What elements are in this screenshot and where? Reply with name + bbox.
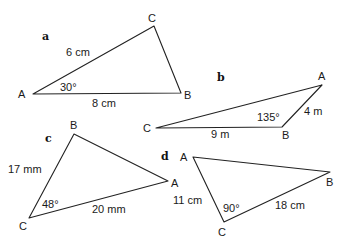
triangle-c-vertex-C: C xyxy=(19,220,27,232)
triangle-c: c A B C 17 mm 20 mm 48° xyxy=(8,119,179,232)
triangle-a-side-AB: 8 cm xyxy=(92,97,116,109)
triangle-a-outline xyxy=(33,26,181,94)
triangle-b-vertex-A: A xyxy=(318,70,326,82)
triangle-a-angle-A: 30° xyxy=(60,81,77,93)
triangle-d-outline xyxy=(193,157,330,222)
triangle-c-side-CA: 20 mm xyxy=(92,203,126,215)
triangle-d-vertex-A: A xyxy=(180,151,188,163)
triangle-c-label: c xyxy=(45,132,52,145)
triangle-a-label: a xyxy=(42,30,49,43)
triangle-a: a A B C 6 cm 8 cm 30° xyxy=(18,12,191,109)
triangle-d-angle-C: 90° xyxy=(223,202,240,214)
triangle-d: d A B C 11 cm 18 cm 90° xyxy=(161,150,333,238)
triangle-d-side-CB: 18 cm xyxy=(275,199,305,211)
triangle-c-vertex-B: B xyxy=(70,119,77,131)
triangle-b-angle-B: 135° xyxy=(257,111,280,123)
triangle-b-label: b xyxy=(217,71,225,84)
triangle-b-side-CB: 9 m xyxy=(211,128,229,140)
triangle-b-vertex-C: C xyxy=(143,122,151,134)
triangle-c-angle-C: 48° xyxy=(42,198,59,210)
triangles-figure: a A B C 6 cm 8 cm 30° b A B C 9 m 4 m 13… xyxy=(0,0,345,249)
triangle-a-vertex-A: A xyxy=(18,88,26,100)
triangle-a-vertex-B: B xyxy=(184,89,191,101)
triangle-c-vertex-A: A xyxy=(171,177,179,189)
triangle-d-side-AC: 11 cm xyxy=(173,194,202,206)
triangle-a-side-AC: 6 cm xyxy=(66,46,90,58)
triangle-b-side-BA: 4 m xyxy=(304,105,322,117)
triangle-a-vertex-C: C xyxy=(148,12,156,24)
triangle-c-side-CB: 17 mm xyxy=(8,163,42,175)
triangle-d-label: d xyxy=(161,150,169,163)
triangle-b-vertex-B: B xyxy=(282,129,289,141)
triangle-d-vertex-B: B xyxy=(326,176,333,188)
triangle-d-vertex-C: C xyxy=(218,226,226,238)
triangle-b: b A B C 9 m 4 m 135° xyxy=(143,70,326,141)
